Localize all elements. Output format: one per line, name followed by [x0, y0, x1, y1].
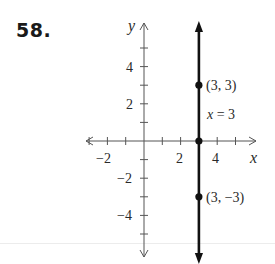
y-tick-label: −4	[117, 208, 132, 223]
x-tick-label: −2	[96, 151, 111, 166]
equation-label: x = 3	[206, 107, 235, 122]
y-axis-label: y	[126, 17, 136, 35]
equation-rest: = 3	[213, 107, 235, 122]
x-tick-label: 2	[176, 151, 183, 166]
point-3-neg3	[195, 193, 202, 200]
x-axis	[86, 137, 256, 145]
line-up-arrowhead-icon	[195, 21, 203, 32]
point-3-3	[195, 82, 202, 89]
y-tick-label: −2	[117, 171, 132, 186]
y-tick-label: 2	[126, 97, 133, 112]
point-label-3-3: (3, 3)	[206, 78, 237, 94]
y-tick-label: 4	[126, 60, 133, 75]
point-3-0	[195, 137, 202, 144]
x-axis-label: x	[249, 149, 257, 166]
coordinate-plane: x y −2 2 4 4 2 −2 −4 (3, 3) (3, −3) x = …	[0, 0, 275, 264]
y-axis	[140, 23, 148, 257]
line-down-arrowhead-icon	[195, 253, 203, 264]
point-label-3-neg3: (3, −3)	[206, 190, 245, 206]
x-tick-label: 4	[212, 151, 219, 166]
